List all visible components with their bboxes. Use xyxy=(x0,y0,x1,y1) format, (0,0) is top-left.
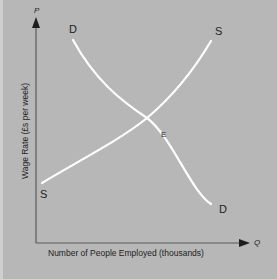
x-axis-title: Number of People Employed (thousands) xyxy=(48,248,204,258)
y-axis-letter: P xyxy=(34,6,39,15)
supply-label-bottom: S xyxy=(40,188,47,200)
demand-label-bottom: D xyxy=(219,203,227,215)
supply-curve xyxy=(42,41,211,183)
supply-label-top: S xyxy=(215,25,222,37)
x-axis-letter: Q xyxy=(254,238,260,247)
y-axis-title: Wage Rate (£s per week) xyxy=(20,83,30,179)
equilibrium-label: E xyxy=(161,130,166,139)
x-axis-arrow-icon xyxy=(239,239,250,247)
supply-demand-diagram xyxy=(0,0,277,279)
y-axis-arrow-icon xyxy=(32,17,40,28)
demand-label-top: D xyxy=(69,23,77,35)
